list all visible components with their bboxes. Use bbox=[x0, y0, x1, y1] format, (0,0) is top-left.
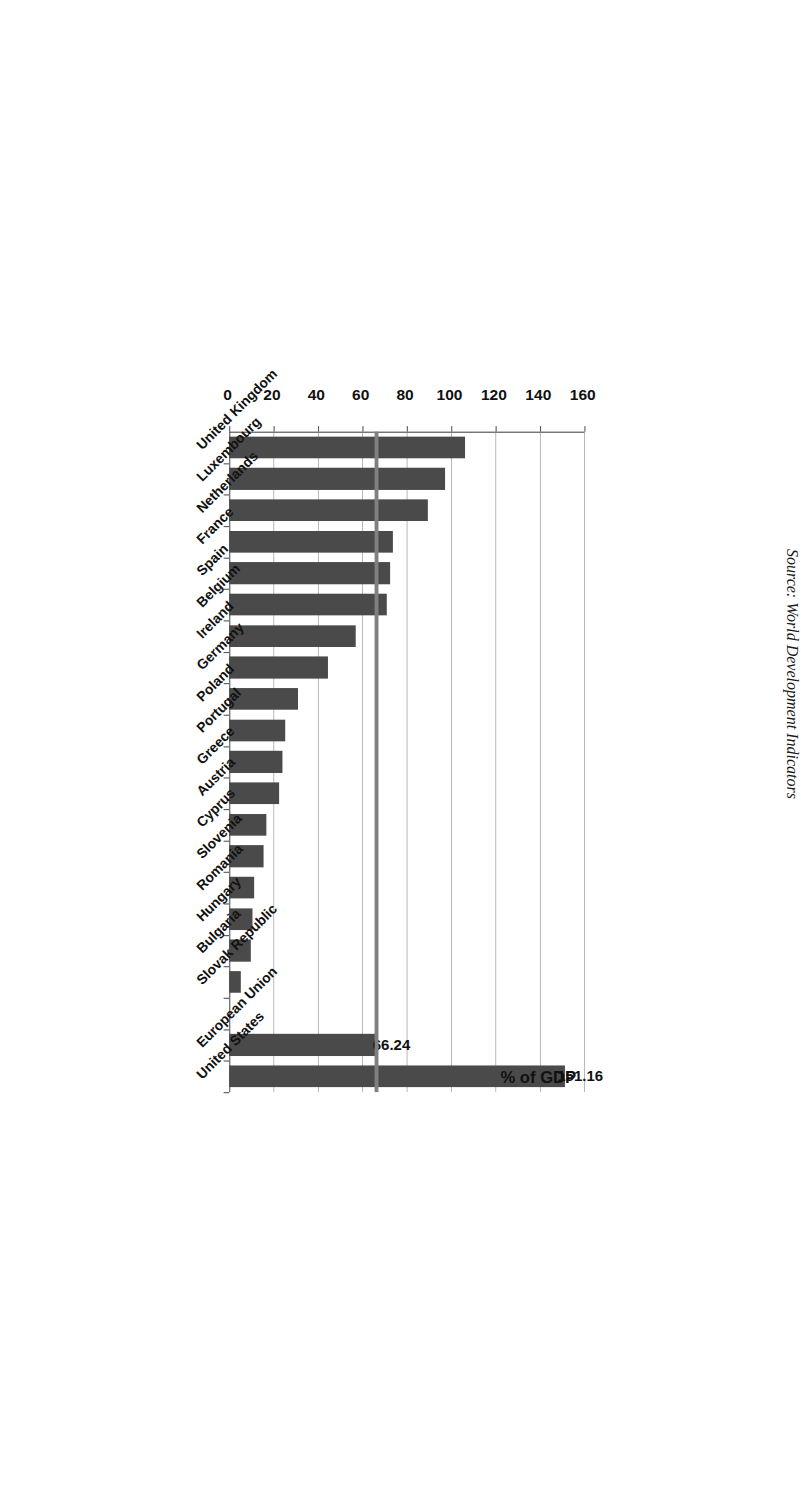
value-axis-tick bbox=[407, 426, 408, 432]
value-axis-tick bbox=[274, 426, 275, 432]
reference-line bbox=[375, 432, 379, 1092]
bar bbox=[229, 499, 428, 521]
bar bbox=[229, 436, 465, 458]
chart-stage: 020406080100120140160United KingdomLuxem… bbox=[199, 365, 599, 1131]
gridline bbox=[584, 432, 585, 1092]
bar bbox=[229, 468, 445, 490]
value-axis-tick-label: 60 bbox=[335, 386, 386, 404]
bar bbox=[229, 657, 328, 679]
category-axis-tick bbox=[224, 1092, 230, 1093]
gridline bbox=[496, 432, 497, 1092]
axis-title: % of GDP bbox=[500, 1068, 576, 1087]
bar bbox=[229, 782, 279, 804]
gridline bbox=[540, 432, 541, 1092]
bar bbox=[229, 531, 393, 553]
plot-canvas: 020406080100120140160United KingdomLuxem… bbox=[229, 432, 584, 1092]
bar bbox=[229, 625, 356, 647]
bar bbox=[229, 1034, 376, 1056]
value-axis-tick-label: 80 bbox=[380, 386, 431, 404]
value-axis-tick bbox=[318, 426, 319, 432]
value-axis-tick-label: 40 bbox=[291, 386, 342, 404]
gridline bbox=[451, 432, 452, 1092]
gridline bbox=[407, 432, 408, 1092]
value-axis-tick-label: 120 bbox=[468, 386, 519, 404]
category-axis-tick bbox=[224, 998, 230, 999]
data-label: 66.24 bbox=[364, 1036, 420, 1053]
value-axis-tick bbox=[496, 426, 497, 432]
source-note-holder: Source: World Development Indicators bbox=[752, 0, 792, 1496]
value-axis-tick bbox=[540, 426, 541, 432]
value-axis-tick bbox=[451, 426, 452, 432]
bar bbox=[229, 971, 241, 993]
value-axis-tick-label: 100 bbox=[424, 386, 475, 404]
bar bbox=[229, 594, 387, 616]
bar bbox=[229, 562, 390, 584]
value-axis-tick bbox=[584, 426, 585, 432]
bar bbox=[229, 751, 282, 773]
bar bbox=[229, 719, 285, 741]
value-axis-tick bbox=[362, 426, 363, 432]
value-axis-tick-label: 140 bbox=[513, 386, 564, 404]
plot-area: 020406080100120140160United KingdomLuxem… bbox=[229, 432, 584, 1092]
value-axis-tick-label: 160 bbox=[557, 386, 608, 404]
source-note: Source: World Development Indicators bbox=[783, 549, 801, 869]
